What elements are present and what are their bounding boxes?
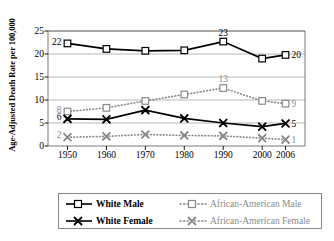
legend-marker-white-male (65, 198, 93, 210)
legend-label-white-male: White Male (96, 199, 144, 209)
data-point-marker (282, 100, 289, 107)
chart-legend: White Male African-American Male White F… (58, 193, 322, 229)
value-label-start: 2 (57, 130, 62, 140)
series-line (67, 135, 285, 140)
legend-item-white-male[interactable]: White Male (65, 195, 144, 212)
value-label-start: 22 (52, 37, 62, 47)
value-label-end: 20 (292, 50, 302, 60)
data-point-marker (103, 46, 110, 53)
series-line (67, 110, 285, 127)
legend-item-white-female[interactable]: White Female (65, 212, 153, 229)
value-label-end: 9 (292, 99, 297, 109)
data-point-marker (282, 52, 289, 59)
value-label-peak: 23 (218, 28, 228, 38)
legend-item-african-american-male[interactable]: African-American Male (179, 195, 302, 212)
chart-figure: Age-Adjusted Death Rate per 100,000 0510… (0, 0, 334, 241)
data-point-marker (220, 85, 227, 92)
series-line (67, 42, 285, 59)
data-point-marker (282, 136, 289, 143)
data-point-marker (103, 105, 110, 112)
data-point-marker (181, 47, 188, 54)
legend-marker-african-american-male (179, 198, 207, 210)
data-point-marker (181, 91, 188, 98)
legend-label-african-american-male: African-American Male (210, 199, 302, 209)
data-point-marker (64, 40, 71, 47)
data-point-marker (64, 108, 71, 115)
legend-label-white-female: White Female (96, 216, 153, 226)
legend-marker-african-american-female (179, 215, 207, 227)
legend-item-african-american-female[interactable]: African-American Female (179, 212, 310, 229)
data-point-marker (142, 47, 149, 54)
value-label-peak: 13 (218, 74, 228, 84)
data-point-marker (220, 38, 227, 45)
value-label-end: 5 (292, 119, 297, 129)
data-point-marker (142, 98, 149, 105)
value-label-end: 1 (292, 135, 297, 145)
data-point-marker (259, 55, 266, 62)
data-point-marker (259, 98, 266, 105)
legend-label-african-american-female: African-American Female (210, 216, 310, 226)
value-label-start: 6 (57, 112, 62, 122)
legend-marker-white-female (65, 215, 93, 227)
